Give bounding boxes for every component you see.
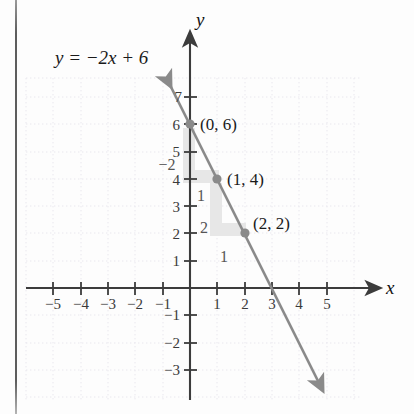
x-tick-label-2: 2 [241,296,249,312]
x-axis-label: x [385,277,395,298]
x-tick-label-5: 5 [323,296,331,312]
slope-annotation-run-top: 1 [197,187,205,204]
coordinate-plane: −5 −4 −3 −2 −1 1 2 3 4 5 −1 −2 −3 1 2 3 … [0,0,414,414]
y-axis-label: y [194,9,205,30]
y-tick-label--1: −1 [164,307,180,323]
graph-figure: −5 −4 −3 −2 −1 1 2 3 4 5 −1 −2 −3 1 2 3 … [0,0,414,414]
equation-label: y = −2x + 6 [53,47,149,68]
data-point-0-6 [185,119,194,128]
x-tick-label-3: 3 [268,296,276,312]
point-label-0-6: (0, 6) [200,115,237,134]
y-tick-label-1: 1 [173,253,181,269]
y-tick-label-2: 2 [173,226,181,242]
y-tick-label-6: 6 [173,117,181,133]
slope-annotation-run-bottom: 1 [220,248,228,265]
data-point-1-4 [212,174,221,183]
slope-annotation-rise-bottom: 2 [200,219,208,236]
y-tick-label-3: 3 [173,199,181,215]
slope-annotation-rise-top: −2 [158,156,175,173]
point-label-2-2: (2, 2) [253,214,290,233]
y-tick-label--3: −3 [164,362,180,378]
data-point-2-2 [240,228,249,237]
x-tick-label-4: 4 [295,296,303,312]
x-tick-label--4: −4 [73,296,89,312]
y-tick-label--2: −2 [164,335,180,351]
x-tick-label-1: 1 [213,296,221,312]
y-tick-label-7: 7 [175,89,183,105]
x-tick-label--2: −2 [127,296,143,312]
y-tick-label-4: 4 [173,172,181,188]
x-tick-label--5: −5 [45,296,61,312]
point-label-1-4: (1, 4) [227,170,264,189]
x-tick-label--3: −3 [100,296,116,312]
